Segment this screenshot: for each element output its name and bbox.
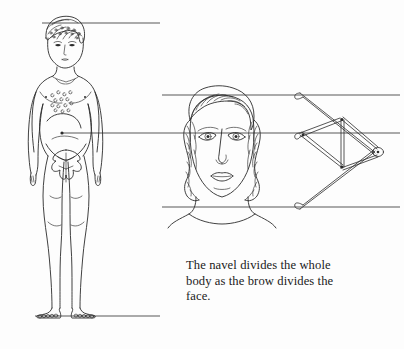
proportion-diagram-page: .ink { fill:none; stroke:#2b2b2b; stroke… bbox=[0, 0, 404, 349]
navel-point-marker bbox=[60, 131, 63, 134]
caption-line-2: body as the brow divides the bbox=[186, 274, 366, 290]
caption-line-3: face. bbox=[186, 289, 366, 305]
caption-text: The navel divides the whole body as the … bbox=[186, 258, 366, 305]
caption-line-1: The navel divides the whole bbox=[186, 258, 366, 274]
pivot-rivet-bottom bbox=[341, 166, 344, 169]
pivot-rivet-left bbox=[302, 134, 305, 137]
pivot-rivet-top bbox=[341, 118, 344, 121]
